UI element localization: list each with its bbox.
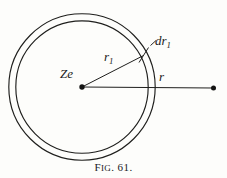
- inner-radius-label: r1: [104, 50, 113, 66]
- shell-thickness-label: dr1: [155, 34, 171, 50]
- inner-radius-subscript: 1: [109, 56, 113, 66]
- caption-number: . 61.: [111, 161, 132, 173]
- figure-caption: FIG. 61.: [0, 161, 227, 173]
- caption-smallcaps: IG: [101, 163, 111, 173]
- figure-container: Ze r1 dr1 r FIG. 61.: [0, 0, 227, 178]
- center-point-dot: [79, 84, 84, 89]
- radius-line-r: [82, 87, 213, 88]
- nuclear-charge-label: Ze: [60, 67, 73, 80]
- field-point-dot: [211, 86, 216, 91]
- shell-thickness-subscript: 1: [167, 40, 171, 50]
- atom-shell-diagram: [0, 0, 227, 178]
- shell-thickness-base: dr: [155, 33, 167, 48]
- outer-radius-label: r: [159, 70, 164, 83]
